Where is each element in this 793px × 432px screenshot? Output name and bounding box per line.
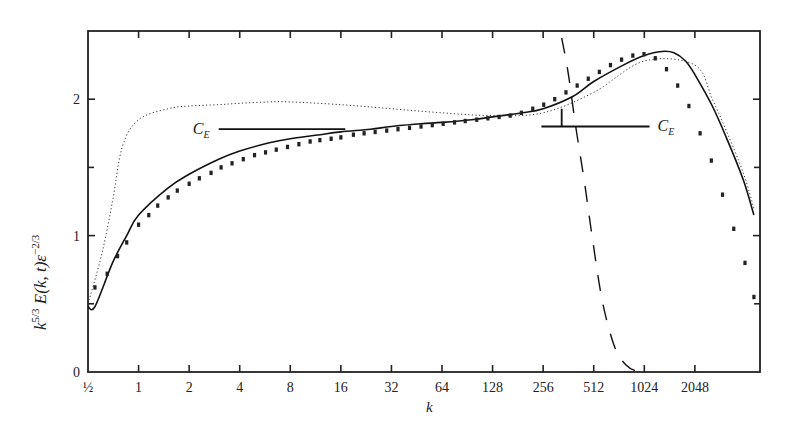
data-marker bbox=[509, 113, 512, 117]
x-tick-label: 8 bbox=[287, 380, 294, 395]
data-marker bbox=[286, 145, 289, 149]
data-marker bbox=[676, 83, 679, 87]
data-marker bbox=[167, 195, 170, 199]
data-marker bbox=[242, 157, 245, 161]
ce-label: CE bbox=[193, 120, 210, 140]
data-marker bbox=[710, 158, 713, 162]
data-marker bbox=[520, 111, 523, 115]
data-marker bbox=[230, 161, 233, 165]
svg-text:k5/3 E(k, t)ε−2/3: k5/3 E(k, t)ε−2/3 bbox=[29, 234, 50, 330]
y-title-exp1: 5/3 bbox=[29, 308, 41, 323]
data-marker bbox=[106, 272, 109, 276]
y-title-exp2: −2/3 bbox=[29, 234, 41, 255]
data-marker bbox=[743, 261, 746, 265]
data-marker bbox=[564, 90, 567, 94]
data-marker bbox=[385, 128, 388, 132]
data-marker bbox=[419, 124, 422, 128]
data-marker bbox=[486, 116, 489, 120]
y-tick-label: 1 bbox=[73, 229, 80, 244]
plot-frame bbox=[88, 31, 760, 372]
data-marker bbox=[374, 130, 377, 134]
data-marker bbox=[587, 77, 590, 81]
data-marker bbox=[721, 192, 724, 196]
data-marker bbox=[752, 295, 755, 299]
data-marker bbox=[408, 126, 411, 130]
plot-border bbox=[88, 31, 760, 372]
series-dashed bbox=[562, 38, 643, 372]
data-marker bbox=[297, 142, 300, 146]
data-marker bbox=[330, 137, 333, 141]
spectrum-chart: ½124816326412825651210242048 012 CECE k … bbox=[0, 0, 793, 432]
data-marker bbox=[339, 135, 342, 139]
data-marker bbox=[253, 153, 256, 157]
data-marker bbox=[620, 57, 623, 61]
data-marker bbox=[553, 97, 556, 101]
x-tick-label: 512 bbox=[583, 380, 604, 395]
data-marker bbox=[642, 52, 645, 56]
x-tick-label: 2 bbox=[186, 380, 193, 395]
data-marker bbox=[631, 53, 634, 57]
data-marker bbox=[156, 203, 159, 207]
series-squares bbox=[93, 52, 755, 299]
data-marker bbox=[209, 171, 212, 175]
y-tick-label: 2 bbox=[73, 92, 80, 107]
data-marker bbox=[275, 147, 278, 151]
data-marker bbox=[598, 70, 601, 74]
x-axis-title: k bbox=[426, 399, 433, 415]
x-tick-label: 2048 bbox=[681, 380, 709, 395]
data-marker bbox=[176, 188, 179, 192]
data-marker bbox=[464, 119, 467, 123]
data-marker bbox=[498, 115, 501, 119]
y-axis: 012 bbox=[73, 92, 760, 380]
x-tick-label: 64 bbox=[435, 380, 449, 395]
data-marker bbox=[732, 227, 735, 231]
x-tick-label: 1 bbox=[135, 380, 142, 395]
x-tick-label: 256 bbox=[533, 380, 554, 395]
data-marker bbox=[264, 150, 267, 154]
data-marker bbox=[699, 131, 702, 135]
x-axis: ½124816326412825651210242048 bbox=[83, 31, 709, 395]
data-marker bbox=[116, 254, 119, 258]
series-dotted bbox=[88, 59, 754, 304]
data-marker bbox=[665, 67, 668, 71]
y-axis-title: k5/3 E(k, t)ε−2/3 bbox=[29, 234, 50, 330]
data-marker bbox=[654, 56, 657, 60]
data-marker bbox=[125, 240, 128, 244]
data-marker bbox=[188, 182, 191, 186]
data-marker bbox=[431, 123, 434, 127]
series-solid bbox=[88, 51, 754, 309]
data-marker bbox=[542, 102, 545, 106]
x-tick-label: 4 bbox=[236, 380, 243, 395]
data-marker bbox=[687, 104, 690, 108]
data-marker bbox=[137, 222, 140, 226]
data-marker bbox=[531, 107, 534, 111]
y-title-mid: E(k, t)ε bbox=[31, 255, 50, 309]
y-tick-label: 0 bbox=[73, 365, 80, 380]
data-marker bbox=[576, 83, 579, 87]
data-marker bbox=[363, 131, 366, 135]
x-tick-label: 1024 bbox=[630, 380, 658, 395]
data-marker bbox=[352, 132, 355, 136]
x-tick-label: ½ bbox=[83, 380, 94, 395]
data-marker bbox=[609, 63, 612, 67]
data-marker bbox=[475, 117, 478, 121]
x-tick-label: 32 bbox=[384, 380, 398, 395]
data-marker bbox=[396, 127, 399, 131]
data-marker bbox=[442, 122, 445, 126]
series-layer bbox=[88, 38, 756, 372]
data-marker bbox=[453, 120, 456, 124]
x-tick-label: 16 bbox=[334, 380, 348, 395]
data-marker bbox=[318, 138, 321, 142]
annotations: CECE bbox=[193, 117, 675, 140]
x-tick-label: 128 bbox=[482, 380, 503, 395]
data-marker bbox=[147, 213, 150, 217]
data-marker bbox=[93, 285, 96, 289]
ce-label: CE bbox=[658, 117, 675, 137]
data-marker bbox=[220, 165, 223, 169]
data-marker bbox=[198, 176, 201, 180]
data-marker bbox=[309, 139, 312, 143]
